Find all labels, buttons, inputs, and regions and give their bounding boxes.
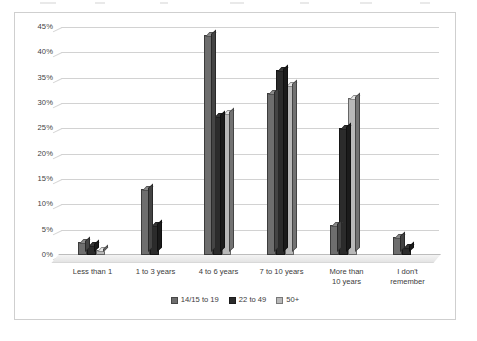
scan-artifact-marks bbox=[0, 0, 477, 9]
y-axis-tick-label: 30% bbox=[38, 99, 54, 107]
bar-group bbox=[393, 27, 423, 255]
bar-slot bbox=[96, 27, 105, 255]
y-axis-tick-label: 40% bbox=[38, 48, 54, 56]
x-axis-category-label: More than 10 years bbox=[327, 267, 367, 286]
legend-label: 14/15 to 19 bbox=[181, 296, 219, 304]
legend-swatch-icon bbox=[229, 297, 236, 304]
y-axis-tick-label: 45% bbox=[38, 23, 54, 31]
bar-slot bbox=[204, 27, 213, 255]
y-axis: 0%5%10%15%20%25%30%35%40%45% bbox=[15, 27, 59, 255]
legend-item[interactable]: 22 to 49 bbox=[229, 296, 266, 304]
x-axis-category-label: I don't remember bbox=[384, 267, 432, 286]
bar[interactable] bbox=[78, 242, 87, 255]
legend-label: 50+ bbox=[286, 296, 299, 304]
bar-group bbox=[267, 27, 297, 255]
x-axis-category-label: Less than 1 bbox=[61, 267, 125, 277]
y-axis-tick-label: 25% bbox=[38, 124, 54, 132]
legend-item[interactable]: 14/15 to 19 bbox=[171, 296, 219, 304]
chart-floor bbox=[51, 254, 441, 263]
y-axis-tick-label: 10% bbox=[38, 200, 54, 208]
chart-legend: 14/15 to 1922 to 4950+ bbox=[15, 296, 455, 304]
bar-slot bbox=[78, 27, 87, 255]
bar-slot bbox=[411, 27, 420, 255]
bar-slot bbox=[141, 27, 150, 255]
bar-slot bbox=[402, 27, 411, 255]
bar-slot bbox=[330, 27, 339, 255]
bar[interactable] bbox=[96, 250, 105, 255]
bar-group bbox=[204, 27, 234, 255]
x-axis-category-label: 1 to 3 years bbox=[124, 267, 188, 277]
y-axis-tick-label: 35% bbox=[38, 74, 54, 82]
bar-slot bbox=[393, 27, 402, 255]
bar-group bbox=[78, 27, 108, 255]
y-axis-tick-label: 20% bbox=[38, 150, 54, 158]
chart-frame: 0%5%10%15%20%25%30%35%40%45% Less than 1… bbox=[14, 12, 456, 320]
x-axis-category-label: 7 to 10 years bbox=[260, 267, 304, 277]
x-axis-category-label: 4 to 6 years bbox=[187, 267, 251, 277]
bar[interactable] bbox=[267, 93, 276, 255]
legend-swatch-icon bbox=[276, 297, 283, 304]
bar[interactable] bbox=[330, 225, 339, 255]
bar[interactable] bbox=[393, 237, 402, 255]
bar[interactable] bbox=[141, 189, 150, 255]
bar[interactable] bbox=[204, 35, 213, 255]
y-axis-tick-label: 5% bbox=[42, 226, 53, 234]
y-axis-tick-label: 15% bbox=[38, 175, 54, 183]
bar-series-container bbox=[61, 27, 439, 255]
y-axis-tick-label: 0% bbox=[42, 251, 53, 259]
bar-group bbox=[141, 27, 171, 255]
legend-swatch-icon bbox=[171, 297, 178, 304]
legend-label: 22 to 49 bbox=[239, 296, 266, 304]
legend-item[interactable]: 50+ bbox=[276, 296, 299, 304]
bar-group bbox=[330, 27, 360, 255]
bar-slot bbox=[267, 27, 276, 255]
bar-slot bbox=[87, 27, 96, 255]
